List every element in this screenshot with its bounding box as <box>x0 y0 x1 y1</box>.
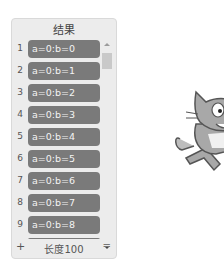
item-value[interactable]: a=0:b=2 <box>28 84 100 102</box>
item-value[interactable]: a=0:b=3 <box>28 106 100 124</box>
item-index: 5 <box>15 131 25 141</box>
list-item: 4 a=0:b=3 <box>12 105 116 125</box>
list-item: 6 a=0:b=5 <box>12 149 116 169</box>
item-value[interactable]: a=0:b=0 <box>28 40 100 58</box>
item-index: 4 <box>15 109 25 119</box>
cat-sprite[interactable] <box>172 84 224 194</box>
list-length-label: 长度100 <box>12 241 116 256</box>
list-title: 结果 <box>12 21 116 37</box>
resize-handle[interactable]: = <box>103 240 111 251</box>
list-footer: + 长度100 = <box>12 238 116 258</box>
item-index: 1 <box>15 43 25 53</box>
item-index: 9 <box>15 219 25 229</box>
scrollbar-thumb[interactable] <box>102 53 112 69</box>
item-value[interactable]: a=0:b=4 <box>28 128 100 146</box>
list-monitor: 结果 1 a=0:b=0 2 a=0:b=1 3 a=0:b=2 4 a=0:b… <box>11 18 117 259</box>
list-item: 9 a=0:b=8 <box>12 215 116 235</box>
item-index: 7 <box>15 175 25 185</box>
item-value[interactable]: a=0:b=6 <box>28 172 100 190</box>
item-value[interactable]: a=0:b=1 <box>28 62 100 80</box>
item-index: 3 <box>15 87 25 97</box>
list-item: 3 a=0:b=2 <box>12 83 116 103</box>
list-item: 5 a=0:b=4 <box>12 127 116 147</box>
list-item: 2 a=0:b=1 <box>12 61 116 81</box>
cat-sprite-icon <box>172 84 224 194</box>
item-index: 6 <box>15 153 25 163</box>
list-body: 1 a=0:b=0 2 a=0:b=1 3 a=0:b=2 4 a=0:b=3 … <box>12 39 116 239</box>
list-item: 8 a=0:b=7 <box>12 193 116 213</box>
item-index: 2 <box>15 65 25 75</box>
list-item: 1 a=0:b=0 <box>12 39 116 59</box>
item-value[interactable]: a=0:b=7 <box>28 194 100 212</box>
scroll-up-arrow-icon[interactable] <box>104 43 110 46</box>
item-value[interactable]: a=0:b=5 <box>28 150 100 168</box>
list-item: 7 a=0:b=6 <box>12 171 116 191</box>
item-index: 8 <box>15 197 25 207</box>
item-value[interactable]: a=0:b=8 <box>28 216 100 234</box>
